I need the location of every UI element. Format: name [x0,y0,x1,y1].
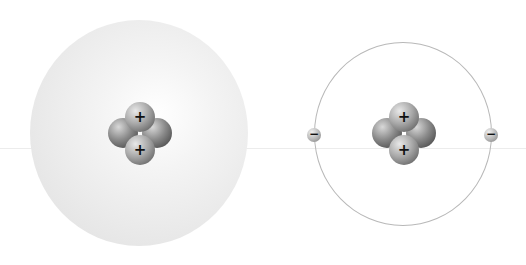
proton-icon: + [389,135,419,165]
proton-icon: + [389,102,419,132]
minus-icon: − [307,128,321,142]
proton-icon: + [125,135,155,165]
proton-icon: + [125,102,155,132]
plus-icon: + [389,102,419,132]
plus-icon: + [125,135,155,165]
electron-icon: − [307,128,321,142]
electron-icon: − [484,128,498,142]
minus-icon: − [484,128,498,142]
plus-icon: + [389,135,419,165]
plus-icon: + [125,102,155,132]
nucleus-right: + + [372,101,436,165]
nucleus-left: + + [108,101,172,165]
atom-models-diagram: + + + + − − [0,0,526,265]
